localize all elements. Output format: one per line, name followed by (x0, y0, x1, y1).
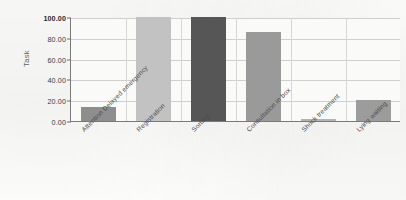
bar (246, 32, 280, 121)
y-tick-mark (67, 18, 71, 19)
y-tick-mark (67, 80, 71, 81)
bar-chart: Task 0.0020.0040.0060.0080.00100.00 Atte… (0, 0, 406, 200)
y-tick-mark (67, 59, 71, 60)
plot-area (70, 18, 400, 122)
y-tick-mark (67, 101, 71, 102)
bar (136, 17, 170, 121)
y-tick-mark (67, 122, 71, 123)
y-tick-label: 40.00 (4, 76, 66, 85)
y-tick-mark (67, 38, 71, 39)
bar (356, 100, 390, 121)
y-tick-label: 20.00 (4, 97, 66, 106)
y-tick-label: 60.00 (4, 55, 66, 64)
y-tick-label: 80.00 (4, 34, 66, 43)
y-tick-label: 0.00 (4, 118, 66, 127)
bar (301, 119, 335, 121)
bar (191, 17, 225, 121)
bar-series (71, 18, 400, 121)
y-tick-label: 100.00 (4, 14, 66, 23)
bar (81, 107, 115, 121)
